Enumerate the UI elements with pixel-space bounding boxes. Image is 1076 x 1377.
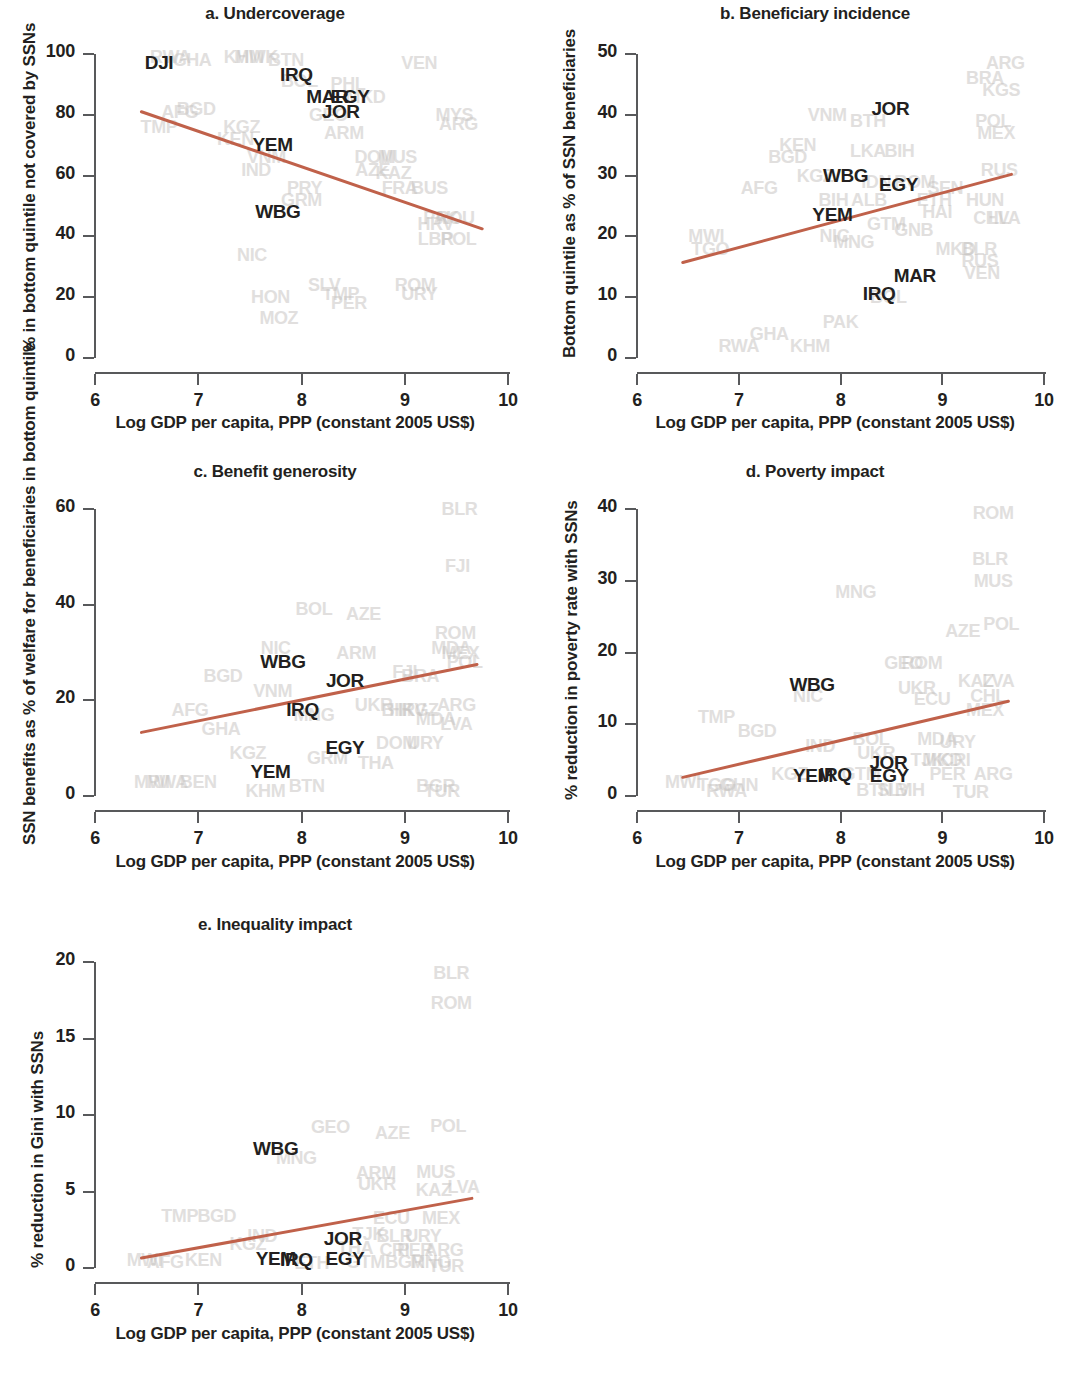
highlighted-label: IRQ	[280, 1249, 313, 1271]
y-tick-label-a-4: 80	[9, 102, 75, 123]
background-label: KHM	[224, 47, 264, 68]
y-tick-label-e-0: 0	[9, 1255, 75, 1276]
background-label: BOL	[295, 599, 332, 620]
background-label: CRI	[941, 750, 971, 771]
y-tick-d-0	[625, 795, 636, 797]
background-label: MUS	[416, 1161, 455, 1182]
x-axis-line-d	[637, 810, 1046, 812]
background-label: TGO	[691, 238, 729, 259]
background-label: MKD	[936, 238, 976, 259]
background-label: MKD	[346, 86, 386, 107]
panel-b: b. Beneficiary incidence0102030405067891…	[0, 0, 1076, 1377]
y-tick-label-d-3: 30	[551, 568, 617, 589]
background-label: KAZ	[958, 671, 994, 692]
background-label: GHN	[719, 775, 758, 796]
y-tick-b-0	[625, 357, 636, 359]
background-label: KAZ	[416, 1179, 452, 1200]
background-label: ECU	[373, 1207, 410, 1228]
x-axis-title-b: Log GDP per capita, PPP (constant 2005 U…	[600, 413, 1070, 433]
x-tick-d-4	[1043, 812, 1045, 823]
background-label: RWA	[147, 771, 187, 792]
y-tick-label-b-5: 50	[551, 41, 617, 62]
y-axis-title-c: SSN benefits as % of welfare for benefic…	[20, 342, 40, 845]
background-label: KGZ	[402, 699, 439, 720]
highlighted-label: EGY	[870, 765, 909, 787]
background-label: KGZ	[223, 116, 260, 137]
background-label: BIH	[885, 141, 915, 162]
panel-d: d. Poverty impact010203040678910Log GDP …	[0, 0, 1076, 1377]
y-tick-label-d-4: 40	[551, 496, 617, 517]
background-label: UKR	[358, 1173, 396, 1194]
background-label: VNM	[808, 104, 847, 125]
y-tick-b-5	[625, 53, 636, 55]
x-tick-label-e-1: 7	[168, 1300, 228, 1321]
y-tick-d-1	[625, 723, 636, 725]
background-label: BTH	[850, 110, 886, 131]
x-tick-label-c-3: 9	[375, 828, 435, 849]
background-label: ARG	[974, 764, 1013, 785]
background-label: VNM	[253, 680, 292, 701]
background-label: MNG	[410, 1251, 451, 1272]
background-label: IND	[247, 1225, 277, 1246]
y-tick-label-a-3: 60	[9, 163, 75, 184]
x-tick-label-e-4: 10	[478, 1300, 538, 1321]
background-label: ETH	[917, 189, 952, 210]
panel-title-b: b. Beneficiary incidence	[580, 4, 1050, 24]
x-axis-line-e	[95, 1282, 510, 1284]
x-tick-d-1	[738, 812, 740, 823]
background-label: LVA	[982, 671, 1014, 692]
y-axis-line-a	[94, 54, 96, 358]
background-label: GHA	[750, 323, 789, 344]
x-tick-label-d-1: 7	[709, 828, 769, 849]
highlighted-label: WBG	[789, 674, 834, 696]
background-label: ROM	[395, 275, 436, 296]
background-label: RWA	[706, 780, 746, 801]
x-axis-title-e: Log GDP per capita, PPP (constant 2005 U…	[60, 1324, 530, 1344]
background-label: GTM	[867, 214, 906, 235]
background-label: SLV	[877, 780, 909, 801]
background-label: LVA	[440, 714, 472, 735]
y-tick-e-3	[83, 1038, 94, 1040]
y-tick-label-e-2: 10	[9, 1102, 75, 1123]
background-label: MNG	[293, 704, 334, 725]
highlighted-label: EGY	[879, 174, 918, 196]
panel-title-a: a. Undercoverage	[40, 4, 510, 24]
highlighted-label: JOR	[869, 752, 907, 774]
background-label: BOL	[853, 728, 890, 749]
background-label: BLR	[961, 238, 997, 259]
background-label: BTN	[856, 780, 892, 801]
trendline-e	[0, 0, 1076, 1377]
y-tick-d-3	[625, 580, 636, 582]
background-label: RUS	[981, 159, 1018, 180]
x-tick-b-2	[840, 374, 842, 385]
x-tick-c-3	[404, 812, 406, 823]
background-label: GTM	[841, 764, 880, 785]
background-label: AZE	[945, 620, 980, 641]
highlighted-label: EGY	[325, 737, 364, 759]
highlighted-label: WBG	[260, 651, 305, 673]
y-tick-a-0	[83, 357, 94, 359]
background-label: MWI	[127, 1250, 163, 1271]
background-label: AFG	[147, 1251, 184, 1272]
background-label: NIC	[793, 685, 823, 706]
background-label: HRV	[390, 699, 426, 720]
background-label: FRA	[382, 177, 418, 198]
background-label: BLR	[377, 1225, 413, 1246]
background-label: TJK	[352, 1224, 385, 1245]
x-tick-a-3	[404, 374, 406, 385]
background-label: KEN	[217, 129, 254, 150]
background-label: URY	[405, 1225, 441, 1246]
x-tick-label-a-0: 6	[65, 390, 125, 411]
background-label: VEN	[964, 262, 1000, 283]
x-tick-d-2	[840, 812, 842, 823]
highlighted-label: EGY	[331, 86, 370, 108]
background-label: ALB	[851, 189, 887, 210]
background-label: RWA	[719, 335, 759, 356]
background-label: ROU	[436, 208, 475, 229]
panel-c: c. Benefit generosity0204060678910Log GD…	[0, 0, 1076, 1377]
x-tick-label-c-2: 8	[272, 828, 332, 849]
background-label: UKR	[857, 742, 895, 763]
highlighted-label: IRQ	[863, 283, 896, 305]
x-axis-title-d: Log GDP per capita, PPP (constant 2005 U…	[600, 852, 1070, 872]
background-label: ROM	[435, 623, 476, 644]
